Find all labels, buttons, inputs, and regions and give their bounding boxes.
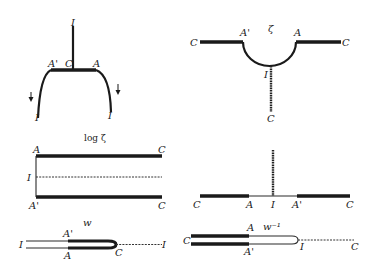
label-C-top: C <box>158 144 166 155</box>
left-arc <box>38 70 51 118</box>
bold-slit-end <box>68 241 116 248</box>
semicircle-notch <box>243 42 296 66</box>
label-A-prime: A' <box>291 199 302 210</box>
label-I-right: I <box>161 239 167 250</box>
label-C: C <box>115 247 123 258</box>
label-A-prime: A' <box>62 228 73 239</box>
panel-middle-right: C A I A' C <box>193 150 354 210</box>
panel-bottom-right: w⁻¹ C A A' I C <box>183 221 359 257</box>
label-A-prime: A' <box>243 246 254 257</box>
panel-bottom-left: w I A' A C I <box>18 217 167 261</box>
label-A-prime: A' <box>47 58 58 69</box>
label-I-left: I <box>18 239 24 250</box>
label-C-right: C <box>342 37 350 48</box>
label-A-prime: A' <box>239 27 250 38</box>
panel-top-right: ζ C A' A C I C <box>190 23 350 124</box>
label-A: A <box>293 27 301 38</box>
panel-top-left: I A' C A I I <box>29 17 121 123</box>
label-C-left: C <box>183 235 191 246</box>
label-C-right: C <box>351 241 359 252</box>
right-arc <box>96 70 111 112</box>
label-C-left: C <box>193 199 201 210</box>
label-I: I <box>299 241 305 252</box>
label-A-prime: A' <box>28 200 39 211</box>
conformal-map-diagram: I A' C A I I ζ C A' A C I C log ζ A C I … <box>0 0 380 271</box>
label-C-right: C <box>346 199 354 210</box>
label-C-left: C <box>190 37 198 48</box>
label-I: I <box>263 69 269 80</box>
label-I-right: I <box>107 110 113 121</box>
label-C-bottom: C <box>158 200 166 211</box>
down-arrow-icon <box>29 92 34 102</box>
panel-title-w: w <box>83 217 92 228</box>
label-I-top: I <box>70 17 76 28</box>
panel-middle-left: log ζ A C I A' C <box>26 133 166 211</box>
panel-title-log-zeta: log ζ <box>84 133 106 143</box>
down-arrow-icon <box>116 84 121 95</box>
label-A: A <box>32 144 40 155</box>
panel-title-zeta: ζ <box>268 23 274 34</box>
panel-title-w-inverse: w⁻¹ <box>263 221 281 232</box>
thin-slit-end <box>249 236 298 244</box>
label-C: C <box>65 58 73 69</box>
label-I: I <box>26 172 32 183</box>
label-C-bottom: C <box>267 113 275 124</box>
label-A: A <box>92 58 100 69</box>
label-I: I <box>270 199 276 210</box>
label-A: A <box>63 250 71 261</box>
label-A: A <box>246 222 254 233</box>
label-A: A <box>245 199 253 210</box>
